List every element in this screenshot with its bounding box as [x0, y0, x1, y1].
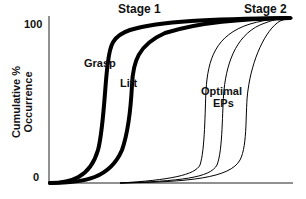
y-tick-0: 0: [33, 172, 39, 183]
eps-label: EPs: [213, 98, 234, 109]
stage2-label: Stage 2: [244, 3, 287, 15]
optimal-label: Optimal: [201, 86, 242, 97]
y-axis-label-line1: Cumulative %: [10, 66, 22, 138]
stage1-label: Stage 1: [118, 3, 161, 15]
lift-label: Lift: [120, 78, 137, 89]
y-tick-100: 100: [24, 19, 42, 30]
plot-area: [0, 0, 306, 199]
y-axis-label: Cumulative % Occurrence: [4, 62, 40, 142]
lift-curve: [50, 18, 290, 183]
grasp-label: Grasp: [84, 58, 116, 69]
cumulative-occurrence-chart: 100 0 Cumulative % Occurrence Stage 1 St…: [0, 0, 306, 199]
optimal-ep-curve-1: [120, 18, 292, 183]
grasp-curve: [50, 18, 290, 183]
y-axis-label-line2: Occurrence: [22, 66, 34, 138]
